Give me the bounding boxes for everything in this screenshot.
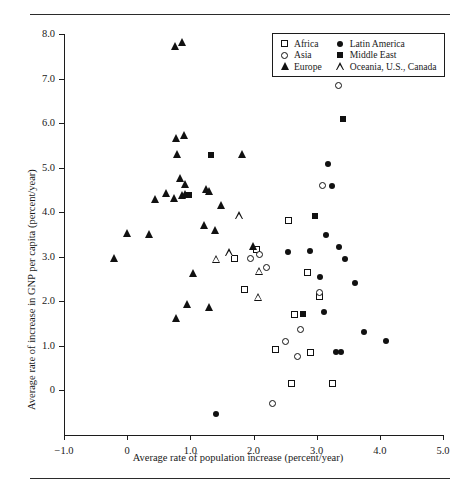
data-point-latin-america	[329, 183, 335, 189]
data-point-oceania-u-s-canada	[225, 248, 233, 256]
bottom-rule	[30, 478, 450, 479]
data-point-latin-america	[285, 249, 291, 255]
top-rule	[30, 14, 450, 15]
legend-marker-shape	[281, 62, 289, 70]
data-point-europe	[217, 201, 225, 209]
data-point-europe	[173, 150, 181, 158]
data-point-europe	[178, 38, 186, 46]
legend-label: Africa	[294, 38, 319, 49]
y-tick-label: 8.0	[0, 29, 55, 39]
data-point-latin-america	[338, 349, 344, 355]
data-point-africa	[285, 217, 292, 224]
x-tick-mark	[380, 435, 381, 440]
legend-label: Latin America	[350, 38, 405, 49]
legend-marker-shape	[336, 62, 344, 70]
data-point-europe	[200, 221, 208, 229]
open-triangle-icon	[335, 62, 346, 70]
data-point-oceania-u-s-canada	[254, 293, 262, 301]
legend: AfricaLatin AmericaAsiaMiddle EastEurope…	[272, 33, 445, 77]
filled-square-icon	[335, 52, 346, 58]
data-point-oceania-u-s-canada	[212, 255, 220, 263]
data-point-europe	[110, 254, 118, 262]
data-point-middle-east	[300, 311, 306, 317]
x-tick-mark	[64, 435, 65, 440]
data-point-asia	[263, 264, 270, 271]
data-point-latin-america	[325, 161, 331, 167]
legend-marker-shape	[281, 52, 288, 59]
legend-entry-asia[interactable]: Asia	[279, 49, 322, 60]
legend-marker-shape	[337, 52, 343, 58]
scatter-plot-figure: 01.02.03.04.05.06.07.08.0 −1.001.02.03.0…	[0, 0, 476, 491]
data-point-latin-america	[342, 256, 348, 262]
open-circle-icon	[279, 52, 290, 59]
data-point-europe	[170, 194, 178, 202]
x-axis-label: Average rate of population increase (per…	[0, 452, 476, 463]
data-point-oceania-u-s-canada	[255, 267, 263, 275]
data-point-asia	[256, 251, 263, 258]
open-square-icon	[279, 40, 290, 47]
data-point-africa	[304, 269, 311, 276]
legend-marker-shape	[337, 41, 343, 47]
legend-entry-africa[interactable]: Africa	[279, 38, 322, 49]
data-point-europe	[181, 180, 189, 188]
data-point-middle-east	[208, 152, 214, 158]
data-point-europe	[172, 314, 180, 322]
legend-label: Europe	[294, 61, 322, 72]
legend-entry-middle-east[interactable]: Middle East	[335, 49, 437, 60]
data-point-europe	[249, 242, 257, 250]
legend-entry-latin-america[interactable]: Latin America	[335, 38, 437, 49]
data-point-asia	[282, 338, 289, 345]
data-point-asia	[316, 289, 323, 296]
data-point-africa	[307, 349, 314, 356]
legend-entry-oceania-u-s-canada[interactable]: Oceania, U.S., Canada	[335, 61, 437, 72]
data-point-europe	[205, 303, 213, 311]
legend-entry-europe[interactable]: Europe	[279, 61, 322, 72]
data-point-middle-east	[340, 116, 346, 122]
data-point-europe	[211, 226, 219, 234]
data-point-latin-america	[352, 280, 358, 286]
data-point-latin-america	[323, 232, 329, 238]
data-point-europe	[183, 300, 191, 308]
data-point-middle-east	[186, 192, 192, 198]
legend-label: Asia	[294, 49, 312, 60]
data-point-latin-america	[307, 248, 313, 254]
data-point-latin-america	[213, 411, 219, 417]
data-point-europe	[205, 187, 213, 195]
y-axis-label: Average rate of increase in GNP per capi…	[26, 169, 37, 410]
x-tick-mark	[127, 435, 128, 440]
filled-triangle-icon	[279, 62, 290, 70]
data-point-europe	[151, 195, 159, 203]
data-point-africa	[272, 346, 279, 353]
data-point-asia	[319, 182, 326, 189]
data-point-asia	[335, 82, 342, 89]
data-point-europe	[123, 229, 131, 237]
x-tick-mark	[190, 435, 191, 440]
y-tick-label: 6.0	[0, 118, 55, 128]
y-tick-label: 7.0	[0, 74, 55, 84]
legend-marker-shape	[281, 40, 288, 47]
plot-area	[64, 34, 443, 435]
data-point-latin-america	[336, 244, 342, 250]
x-tick-mark	[443, 435, 444, 440]
legend-label: Middle East	[350, 49, 397, 60]
filled-circle-icon	[335, 41, 346, 47]
x-tick-mark	[317, 435, 318, 440]
data-point-africa	[288, 380, 295, 387]
data-point-africa	[241, 286, 248, 293]
data-point-asia	[269, 400, 276, 407]
legend-label: Oceania, U.S., Canada	[350, 61, 437, 72]
data-point-oceania-u-s-canada	[235, 211, 243, 219]
data-point-asia	[247, 255, 254, 262]
data-point-asia	[294, 353, 301, 360]
legend-grid: AfricaLatin AmericaAsiaMiddle EastEurope…	[279, 38, 437, 72]
data-point-europe	[189, 269, 197, 277]
data-point-africa	[291, 311, 298, 318]
data-point-africa	[329, 380, 336, 387]
data-point-latin-america	[383, 338, 389, 344]
data-point-europe	[162, 189, 170, 197]
data-point-europe	[180, 131, 188, 139]
data-point-europe	[238, 150, 246, 158]
data-point-middle-east	[312, 213, 318, 219]
data-point-asia	[297, 326, 304, 333]
data-point-latin-america	[321, 309, 327, 315]
